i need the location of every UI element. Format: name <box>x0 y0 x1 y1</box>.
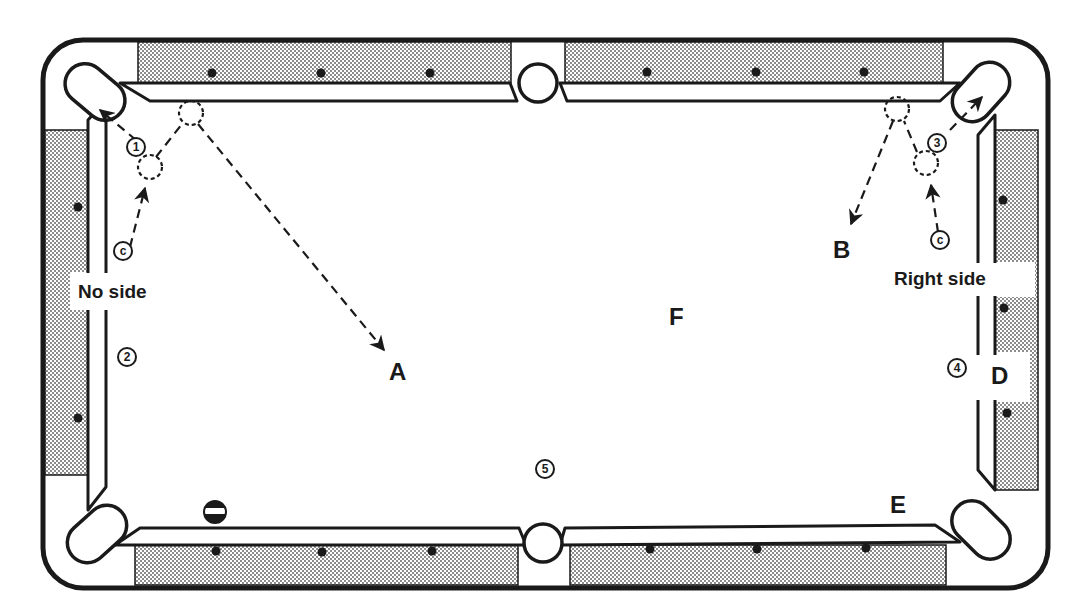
label-b: B <box>833 238 850 262</box>
pocket-top-side <box>519 64 557 102</box>
label-a: A <box>389 360 406 384</box>
ball-2: 2 <box>117 347 137 367</box>
label-d: D <box>991 364 1008 388</box>
cue-ball-right: c <box>930 230 950 250</box>
label-f: F <box>669 305 684 329</box>
label-e: E <box>890 493 906 517</box>
label-right-side: Right side <box>890 266 990 291</box>
striped-ball <box>204 501 226 523</box>
pool-table-svg <box>0 0 1077 616</box>
pool-table-diagram: A B D E F No side Right side 1 2 3 4 5 c… <box>0 0 1077 616</box>
pocket-bottom-side <box>524 524 562 562</box>
label-no-side: No side <box>74 279 151 304</box>
cue-ball-left: c <box>113 241 133 261</box>
ball-4: 4 <box>947 358 967 378</box>
ball-5: 5 <box>535 459 555 479</box>
ball-1: 1 <box>126 137 146 157</box>
ball-3: 3 <box>927 133 947 153</box>
